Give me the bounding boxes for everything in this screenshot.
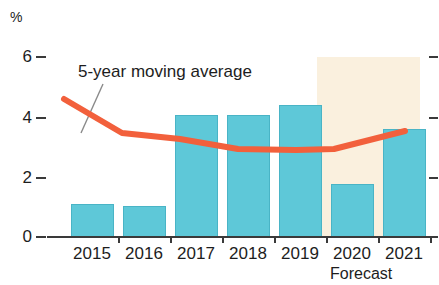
plot-area: 6 4 2 0 % 2015 2016 2017 2018 2019 2020 … xyxy=(0,0,439,285)
y-tick-right-4 xyxy=(429,117,438,119)
x-axis-label-2021: 2021 xyxy=(376,245,432,262)
y-tick-4 xyxy=(36,117,46,119)
x-tick-2015 xyxy=(118,237,120,243)
bar-2016 xyxy=(123,206,166,237)
y-axis-label-6: 6 xyxy=(8,48,32,65)
bar-2018 xyxy=(227,115,270,237)
y-axis-label-4: 4 xyxy=(8,109,32,126)
x-axis-label-2020: 2020 xyxy=(324,245,380,262)
chart-container: 6 4 2 0 % 2015 2016 2017 2018 2019 2020 … xyxy=(0,0,439,285)
bar-2017 xyxy=(175,115,218,237)
y-tick-right-6 xyxy=(429,56,438,58)
x-tick-2021 xyxy=(430,237,432,243)
moving-average-annotation: 5-year moving average xyxy=(78,63,252,80)
x-tick-2017 xyxy=(222,237,224,243)
y-tick-2 xyxy=(36,177,46,179)
x-axis-label-2018: 2018 xyxy=(220,245,276,262)
x-tick-2020 xyxy=(378,237,380,243)
x-axis-label-2019: 2019 xyxy=(272,245,328,262)
bar-2020 xyxy=(331,184,374,237)
y-axis-label-2: 2 xyxy=(8,169,32,186)
forecast-label: Forecast xyxy=(330,266,392,282)
bar-2015 xyxy=(71,204,114,237)
bar-2019 xyxy=(279,105,322,237)
y-tick-right-2 xyxy=(429,177,438,179)
y-tick-6 xyxy=(36,56,46,58)
x-axis-label-2017: 2017 xyxy=(168,245,224,262)
y-tick-0 xyxy=(36,236,46,238)
x-tick-2019 xyxy=(326,237,328,243)
x-tick-2016 xyxy=(170,237,172,243)
x-tick-2018 xyxy=(274,237,276,243)
annotation-leader-line xyxy=(81,84,103,133)
x-axis-label-2015: 2015 xyxy=(64,245,120,262)
y-axis-label-0: 0 xyxy=(8,228,32,245)
y-axis-unit: % xyxy=(10,10,22,24)
bar-2021 xyxy=(383,129,426,237)
x-axis-label-2016: 2016 xyxy=(116,245,172,262)
